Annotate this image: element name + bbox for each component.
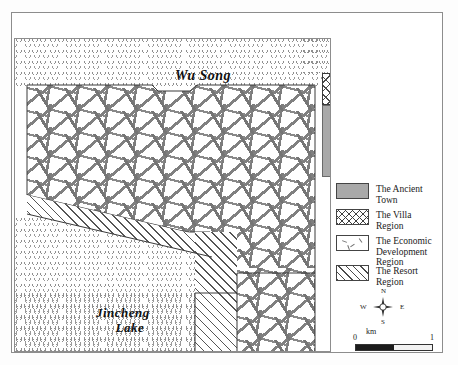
scale-unit-label: km — [366, 327, 376, 336]
compass-label-west: W — [360, 303, 367, 311]
legend-swatch-economic-development-region — [336, 235, 369, 251]
scale-tick-max: 1 — [430, 333, 434, 342]
legend-swatch-villa-region — [336, 209, 369, 225]
legend-label-economic-line1: The Economic — [376, 236, 438, 247]
legend-item-resort-region: The Resort Region — [336, 265, 438, 285]
legend-swatch-ancient-town — [336, 183, 369, 199]
scale-tick-min: 0 — [353, 333, 357, 342]
legend: The Ancient Town The Villa Region The Ec… — [336, 183, 438, 291]
map-neatline — [12, 13, 331, 352]
map-panel: Wu Song Jincheng Lake — [12, 13, 331, 352]
figure-root: Wu Song Jincheng Lake The Ancient Town T… — [0, 0, 458, 365]
scale-bar — [355, 344, 433, 351]
compass-star-icon — [373, 297, 393, 317]
legend-label-villa-region: The Villa Region — [376, 209, 438, 231]
scale-bar-fill — [356, 345, 394, 350]
legend-label-resort-region: The Resort Region — [376, 265, 438, 287]
compass-label-north: N — [381, 287, 386, 295]
legend-swatch-resort-region — [336, 265, 369, 281]
compass-label-south: S — [381, 318, 385, 326]
legend-item-economic-development-region: The Economic Development Region — [336, 235, 438, 259]
legend-label-economic-development-region: The Economic Development Region — [376, 235, 438, 268]
legend-item-villa-region: The Villa Region — [336, 209, 438, 229]
compass-label-east: E — [400, 303, 404, 311]
compass-rose: N S W E — [360, 288, 406, 328]
legend-item-ancient-town: The Ancient Town — [336, 183, 438, 203]
legend-label-ancient-town: The Ancient Town — [376, 183, 438, 205]
